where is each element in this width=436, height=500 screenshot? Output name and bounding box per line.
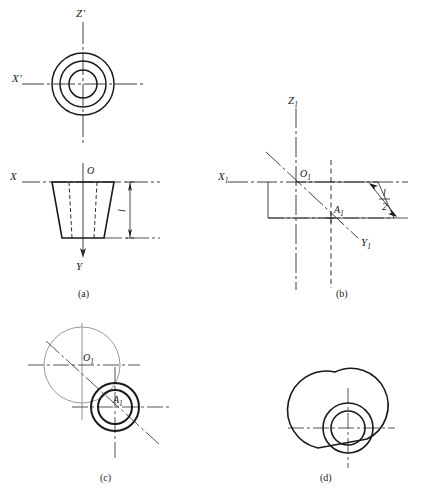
half-l-denominator: 2 [382, 201, 387, 212]
caption-d: (d) [320, 472, 332, 483]
a1-point-label: A1 [333, 204, 344, 218]
dimension-arrow-half-l-end [388, 210, 397, 218]
frustum-body-outline [288, 368, 389, 448]
dimension-arrow-half-l-start [369, 183, 378, 191]
dimension-label-half-l: l 2 [379, 187, 390, 212]
o1-label-panel-c: O1 [83, 352, 94, 366]
y-axis-label: Y [76, 260, 84, 272]
drawing-sheet: X' Z' l X [0, 0, 436, 500]
o1-point-label: O1 [300, 168, 311, 182]
oblique-construction-axis [46, 341, 160, 445]
caption-a: (a) [78, 288, 89, 299]
panel-d [240, 340, 430, 490]
caption-b: (b) [336, 288, 348, 299]
caption-c: (c) [100, 472, 111, 483]
origin-label-o: O [87, 165, 94, 176]
hidden-line-left [69, 182, 72, 238]
y1-axis-line [266, 152, 358, 238]
half-l-numerator: l [383, 187, 386, 198]
hidden-line-right [94, 182, 97, 238]
z-prime-axis-label: Z' [76, 7, 86, 19]
panel-a: X' Z' l X [0, 0, 218, 300]
panel-a-front-view: l [22, 163, 160, 258]
x-axis-label: X [9, 170, 18, 182]
panel-b: l 2 Z1 X1 Y1 O1 A1 [218, 60, 436, 300]
z1-axis-label: Z1 [288, 94, 298, 109]
dimension-label-l: l [116, 209, 127, 212]
a1-label-panel-c: A1 [112, 394, 123, 408]
y1-axis-label: Y1 [361, 236, 371, 251]
x1-axis-label: X1 [218, 170, 228, 185]
panel-c: O1 A1 [20, 315, 220, 475]
x-prime-axis-label: X' [11, 72, 22, 84]
panel-a-top-view-axes [22, 22, 145, 145]
